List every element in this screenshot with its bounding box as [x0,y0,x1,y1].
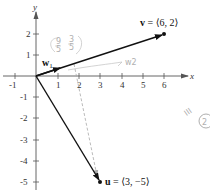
handwritten-fraction-note: 9 5 3 5 [51,35,82,54]
x-tick-label: 6 [162,80,167,90]
x-tick-label: 4 [120,80,125,90]
vector-w1-label: w1 [42,57,53,70]
vector-v-label: v = ⟨6, 2⟩ [140,17,179,28]
vector-u-label: u = ⟨3, −5⟩ [105,176,150,187]
svg-text:5: 5 [56,45,61,54]
svg-text:III: III [183,106,194,117]
y-tick-label: -5 [20,177,28,187]
handwritten-w2-vector [74,64,97,176]
vector-u [36,76,102,184]
x-tick-label: -1 [9,80,17,90]
svg-text:2: 2 [202,118,207,127]
handwritten-margin-note: III [183,106,194,117]
y-tick-label: -3 [20,135,28,145]
handwritten-w2-label: w2 [68,58,137,70]
y-axis-label: y [32,2,37,12]
y-tick-label: -1 [20,92,28,102]
svg-text:5: 5 [69,43,74,52]
vector-projection-diagram: x y -1 1 2 3 4 5 6 2 1 -1 [0,0,210,196]
handwritten-circled-number: 2 [199,114,210,128]
svg-text:w2: w2 [125,58,137,67]
vector-w1 [36,68,60,76]
x-axis-label: x [189,71,194,81]
x-tick-label: 3 [98,80,103,90]
y-tick-label: -4 [20,156,28,166]
y-tick-label: 1 [26,50,31,60]
x-tick-label: 5 [141,80,146,90]
y-tick-label: 2 [26,29,31,39]
x-tick-label: 1 [56,80,61,90]
y-tick-label: -2 [20,113,28,123]
